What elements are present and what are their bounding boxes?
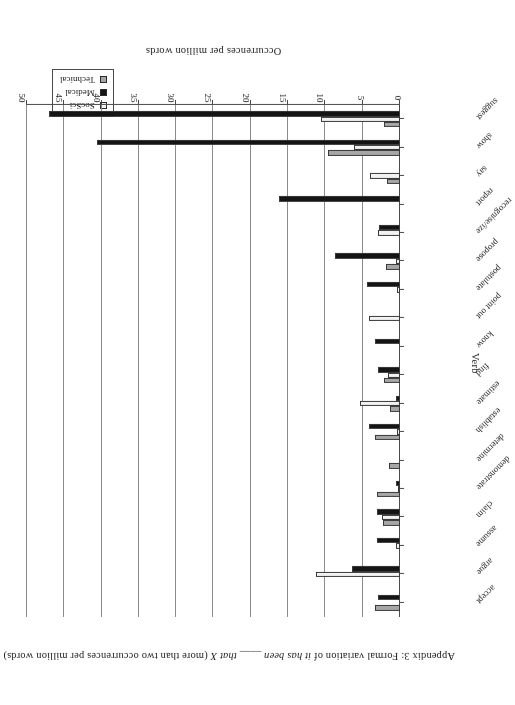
bar-technical-find: [384, 378, 400, 383]
bar-socsci-estimate: [360, 401, 400, 406]
bar-group: [27, 389, 400, 417]
bar-group: [27, 304, 400, 332]
category-label-say: say: [474, 164, 490, 180]
value-tick-label-50: 50: [18, 94, 28, 103]
bar-technical-demonstrate: [377, 492, 400, 497]
bar-socsci-say: [370, 173, 400, 178]
bar-group: [27, 560, 400, 588]
bar-socsci-point-out: [369, 316, 400, 321]
bar-medical-assume: [377, 538, 400, 543]
bar-technical-establish: [375, 435, 400, 440]
bar-technical-determine: [389, 463, 400, 468]
bar-group: [27, 503, 400, 531]
value-tick-label-10: 10: [316, 94, 326, 103]
bar-group: [27, 190, 400, 218]
bar-group: [27, 589, 400, 617]
category-axis-title: Verb: [470, 353, 481, 374]
bar-group: [27, 247, 400, 275]
category-label-suggest: suggest: [474, 97, 500, 123]
bar-socsci-show: [354, 145, 400, 150]
value-tick-label-15: 15: [279, 94, 289, 103]
bar-group: [27, 532, 400, 560]
value-axis-title: Occurrences per million words: [27, 46, 400, 57]
category-label-argue: argue: [474, 557, 495, 578]
bar-medical-report: [279, 196, 400, 201]
bar-technical-estimate: [390, 406, 400, 411]
bar-group: [27, 105, 400, 133]
category-label-claim: claim: [474, 500, 495, 521]
bar-technical-accept: [375, 606, 400, 611]
bar-socsci-recognise-ize: [378, 230, 400, 235]
category-label-assume: assume: [474, 524, 500, 550]
bar-technical-propose: [386, 264, 400, 269]
bar-socsci-find: [388, 373, 400, 378]
category-label-point-out: point out: [474, 292, 504, 322]
bar-group: [27, 162, 400, 190]
value-axis-rule: [27, 104, 400, 105]
bar-group: [27, 475, 400, 503]
bar-group: [27, 219, 400, 247]
value-axis: 05101520253035404550: [27, 65, 400, 105]
bar-group: [27, 418, 400, 446]
plot-area: [27, 105, 400, 617]
bar-medical-show: [97, 140, 400, 145]
chart-title-suffix: (more than two occurrences per million w…: [3, 651, 210, 662]
bar-medical-propose: [335, 253, 400, 258]
bar-medical-claim: [377, 509, 400, 514]
bar-medical-find: [378, 367, 400, 372]
bar-socsci-argue: [316, 572, 400, 577]
bar-technical-show: [328, 150, 400, 155]
bar-group: [27, 276, 400, 304]
value-tick-label-45: 45: [55, 94, 65, 103]
bar-group: [27, 133, 400, 161]
category-label-propose: propose: [474, 238, 501, 265]
value-tick-label-25: 25: [204, 94, 214, 103]
category-label-accept: accept: [474, 583, 497, 606]
bar-medical-postulate: [367, 282, 400, 287]
category-label-postulate: postulate: [474, 263, 504, 293]
value-tick-5: [362, 100, 363, 105]
bar-socsci-suggest: [321, 117, 400, 122]
chart-title-italic-complement: that X: [211, 651, 237, 662]
value-tick-label-40: 40: [92, 94, 102, 103]
bar-medical-recognise-ize: [379, 225, 400, 230]
bar-group: [27, 361, 400, 389]
value-tick-label-5: 5: [355, 96, 365, 101]
bar-group: [27, 446, 400, 474]
category-label-report: report: [474, 186, 496, 208]
bar-medical-know: [375, 339, 400, 344]
bar-technical-say: [387, 179, 400, 184]
bar-medical-accept: [378, 595, 400, 600]
bar-medical-establish: [369, 424, 400, 429]
chart-title: Appendix 3: Formal variation of it has b…: [35, 650, 455, 663]
value-tick-label-30: 30: [167, 94, 177, 103]
value-tick-label-0: 0: [393, 96, 403, 101]
bar-medical-suggest: [49, 111, 400, 116]
bar-group: [27, 333, 400, 361]
value-tick-label-35: 35: [129, 94, 139, 103]
chart-title-italic-subject: it has been: [264, 651, 311, 662]
value-tick-label-20: 20: [241, 94, 251, 103]
category-label-know: know: [474, 329, 495, 350]
category-label-estimate: estimate: [474, 379, 502, 407]
bar-technical-claim: [383, 520, 400, 525]
bar-medical-argue: [352, 566, 400, 571]
bar-socsci-claim: [382, 515, 400, 520]
chart-title-prefix: Appendix 3: Formal variation of: [311, 651, 455, 662]
chart-title-blank: ____: [237, 651, 264, 662]
bar-technical-suggest: [384, 122, 400, 127]
category-label-show: show: [474, 131, 495, 152]
